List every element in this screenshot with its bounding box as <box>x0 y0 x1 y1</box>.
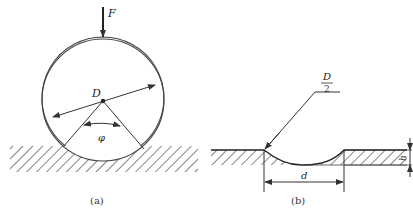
angle-arc <box>84 123 120 126</box>
radius-leader <box>266 92 340 148</box>
indentation-diagram: F D φ (a) d h D 2 <box>0 0 413 213</box>
radius-label-numerator: D <box>322 71 331 82</box>
depth-label: h <box>398 155 408 161</box>
diameter-label: D <box>91 87 101 100</box>
width-label: d <box>301 170 307 181</box>
force-label: F <box>107 7 116 20</box>
caption-b: (b) <box>291 195 305 206</box>
ground-hatch-b <box>211 150 407 166</box>
figure-b: d h D 2 (b) <box>211 71 412 206</box>
angle-label: φ <box>98 132 105 143</box>
contact-line-right <box>103 101 144 149</box>
caption-a: (a) <box>90 195 104 206</box>
radius-label-denominator: 2 <box>324 84 330 94</box>
figure-a: F D φ (a) <box>10 7 198 206</box>
